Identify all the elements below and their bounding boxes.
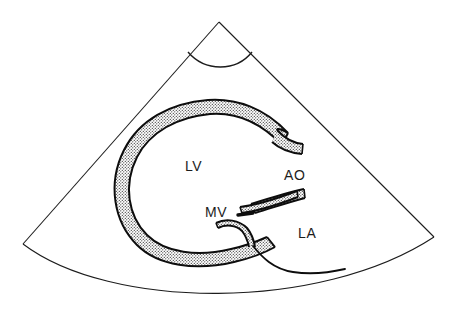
anterior-aortic-wall-stipple <box>240 120 320 170</box>
anterior-mitral-leaflet-base-cap <box>297 191 298 197</box>
label-ao: AO <box>284 167 305 183</box>
label-lv: LV <box>185 158 202 174</box>
echo-diagram-canvas: LV AO MV LA <box>0 0 458 321</box>
echocardiogram-figure: LV AO MV LA <box>0 0 458 321</box>
label-mv: MV <box>205 204 227 220</box>
label-la: LA <box>298 225 316 241</box>
anterior-aortic-wall-tip-cap <box>302 144 303 154</box>
